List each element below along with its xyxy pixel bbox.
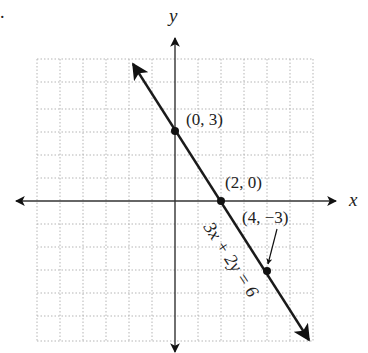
coordinate-plane: . x y (0, 3) (2, 0) (4,: [0, 0, 368, 353]
point-label-0-3: (0, 3): [186, 110, 223, 129]
point-label-2-0: (2, 0): [225, 173, 262, 192]
point-0-3: [171, 127, 179, 135]
point-2-0: [217, 197, 225, 205]
point-4-neg3: [263, 267, 271, 275]
equation-label: 3x + 2y = 6: [199, 217, 263, 300]
point-label-4-neg3: (4, −3): [242, 208, 288, 227]
y-axis-label: y: [167, 5, 178, 26]
problem-marker: .: [0, 2, 5, 22]
x-axis-label: x: [348, 189, 358, 210]
